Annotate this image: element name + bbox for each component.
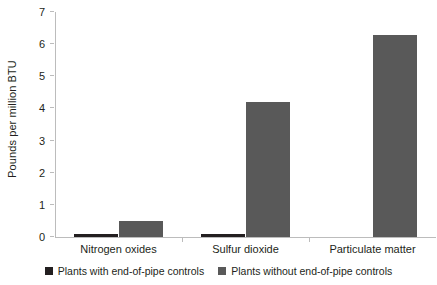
y-axis-tick-mark	[50, 43, 54, 44]
x-axis-label-nitrogen-oxides: Nitrogen oxides	[55, 241, 182, 257]
y-axis-tick-mark	[50, 75, 54, 76]
bar-chart: Pounds per million BTU 01234567 Nitrogen…	[0, 0, 437, 285]
y-axis-tick: 7	[0, 5, 55, 19]
y-axis-tick: 6	[0, 37, 55, 51]
legend-swatch-icon-with-controls	[45, 267, 53, 275]
y-axis-tick-label: 3	[39, 134, 45, 148]
bar-sulfur-dioxide-series-0	[201, 234, 245, 237]
bar-nitrogen-oxides-series-1	[119, 221, 163, 237]
y-axis-tick: 0	[0, 230, 55, 244]
x-axis-label-sulfur-dioxide: Sulfur dioxide	[182, 241, 309, 257]
y-axis-tick-mark	[50, 172, 54, 173]
y-axis-tick: 5	[0, 69, 55, 83]
plot-area	[55, 12, 436, 237]
x-axis-label-particulate-matter: Particulate matter	[309, 241, 436, 257]
y-axis-tick-mark	[50, 11, 54, 12]
legend-entry-with-controls: Plants with end-of-pipe controls	[45, 265, 205, 277]
y-axis-tick: 2	[0, 166, 55, 180]
y-axis-tick-label: 4	[39, 101, 45, 115]
bar-sulfur-dioxide-series-1	[246, 102, 290, 237]
chart-legend: Plants with end-of-pipe controls Plants …	[0, 262, 437, 280]
y-axis-tick-label: 5	[39, 69, 45, 83]
y-axis-tick-label: 2	[39, 166, 45, 180]
legend-entry-without-controls: Plants without end-of-pipe controls	[218, 265, 392, 277]
y-axis-tick-label: 6	[39, 37, 45, 51]
y-axis-tick: 4	[0, 101, 55, 115]
legend-label-without-controls: Plants without end-of-pipe controls	[231, 265, 392, 277]
y-axis-tick: 1	[0, 198, 55, 212]
y-axis-tick-mark	[50, 107, 54, 108]
bar-nitrogen-oxides-series-0	[74, 234, 118, 237]
bar-particulate-matter-series-1	[373, 35, 417, 238]
y-axis-tick-label: 1	[39, 198, 45, 212]
legend-label-with-controls: Plants with end-of-pipe controls	[58, 265, 205, 277]
y-axis-tick-label: 0	[39, 230, 45, 244]
y-axis-tick-label: 7	[39, 5, 45, 19]
legend-swatch-icon-without-controls	[218, 267, 226, 275]
y-axis-tick: 3	[0, 134, 55, 148]
y-axis-tick-mark	[50, 236, 54, 237]
y-axis-tick-mark	[50, 140, 54, 141]
y-axis-tick-mark	[50, 204, 54, 205]
x-axis-line	[55, 237, 436, 238]
